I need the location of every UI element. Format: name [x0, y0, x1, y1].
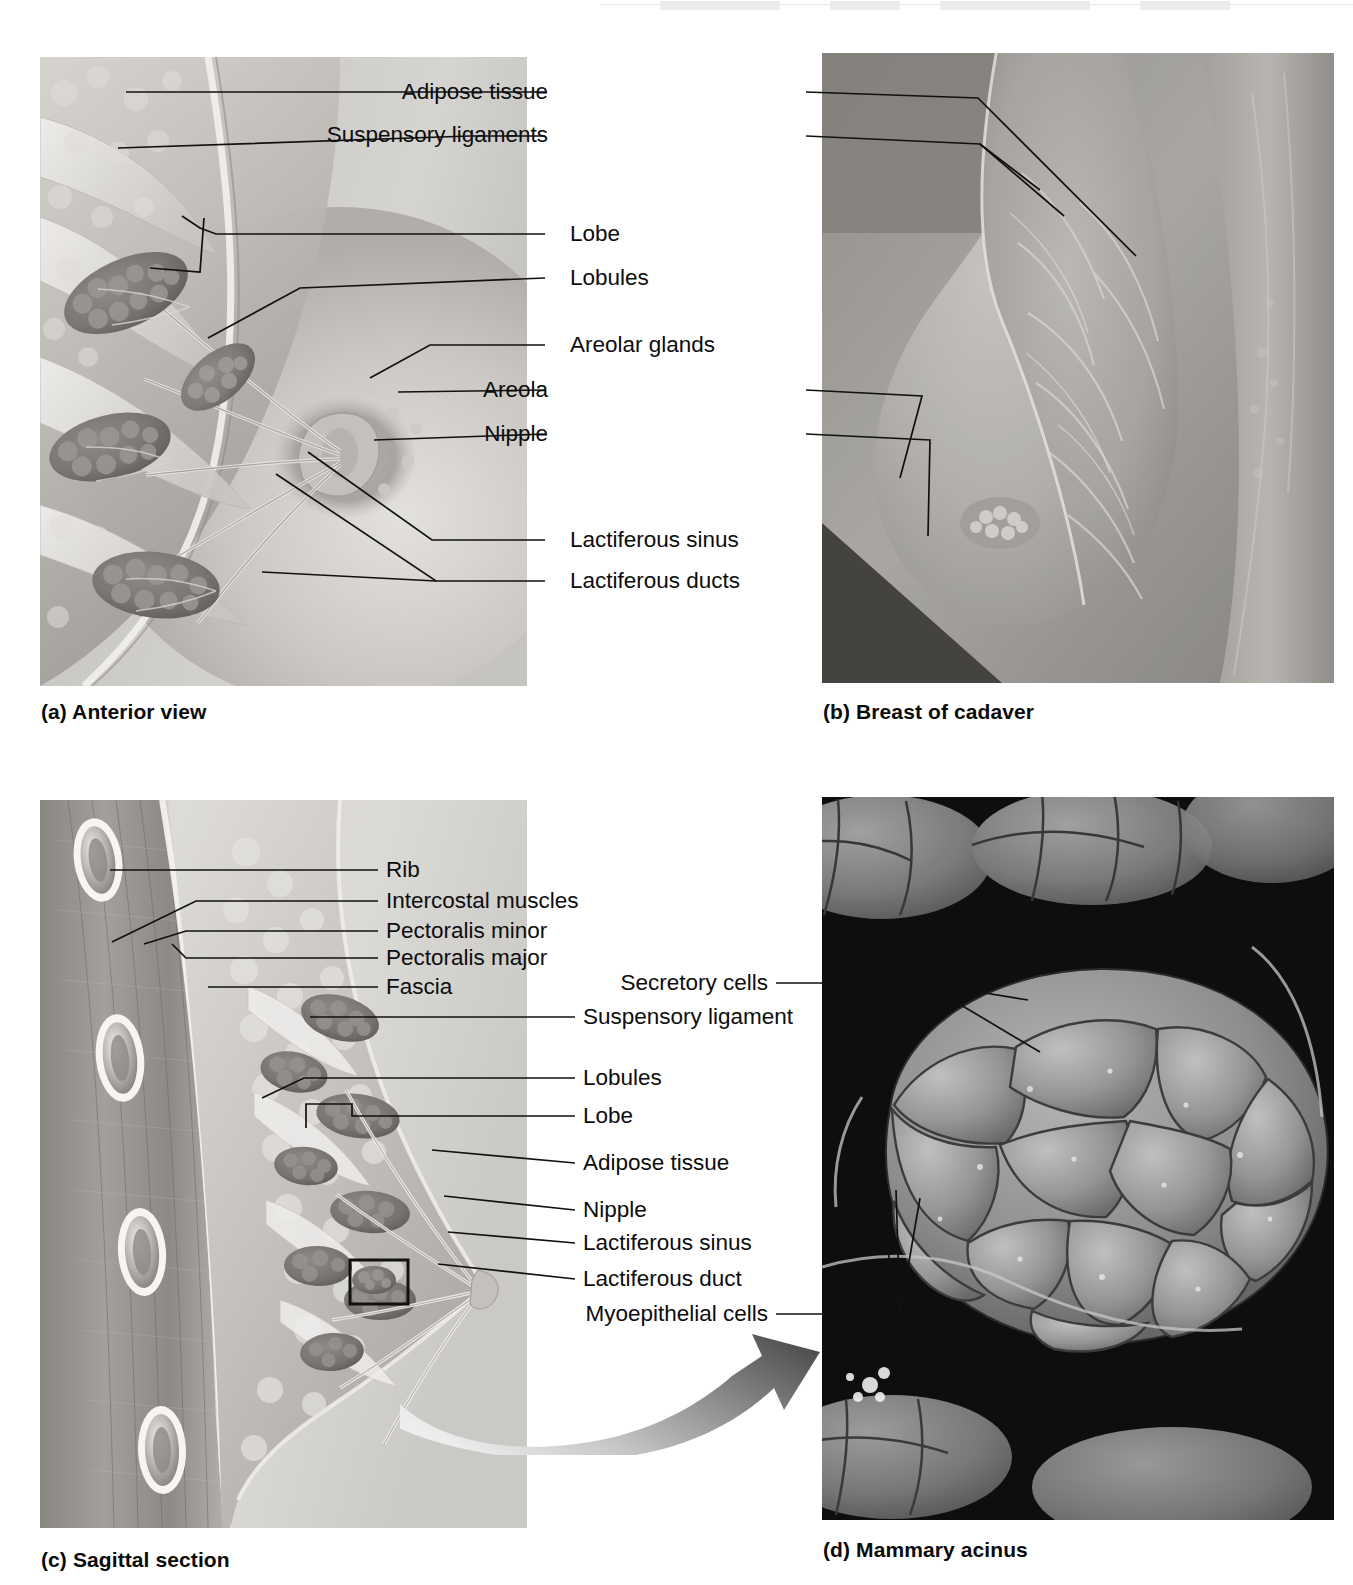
- cadaver-breast-photograph: [822, 53, 1334, 683]
- label-nipple-a: Nipple: [300, 423, 548, 446]
- panel-a-anterior-view: [40, 57, 527, 686]
- anterior-view-illustration: [40, 57, 527, 686]
- label-suspensory-ligaments-a: Suspensory ligaments: [300, 124, 548, 147]
- caption-panel-c: (c) Sagittal section: [41, 1548, 230, 1572]
- label-adipose-tissue-a: Adipose tissue: [300, 81, 548, 104]
- label-suspensory-ligament-c: Suspensory ligament: [583, 1006, 793, 1029]
- running-head-strip: [600, 0, 1353, 16]
- panel-d-mammary-acinus-micrograph: [822, 797, 1334, 1520]
- label-fascia: Fascia: [386, 976, 452, 999]
- label-rib: Rib: [386, 859, 420, 882]
- label-areola-a: Areola: [300, 379, 548, 402]
- label-pectoralis-major: Pectoralis major: [386, 947, 547, 970]
- label-areolar-glands-a: Areolar glands: [570, 334, 715, 357]
- label-lactiferous-sinus-a: Lactiferous sinus: [570, 529, 739, 552]
- caption-panel-d: (d) Mammary acinus: [823, 1538, 1028, 1562]
- label-nipple-c: Nipple: [583, 1199, 647, 1222]
- label-lactiferous-duct-c: Lactiferous duct: [583, 1268, 742, 1291]
- label-lobe-c: Lobe: [583, 1105, 633, 1128]
- label-adipose-tissue-c: Adipose tissue: [583, 1152, 729, 1175]
- panel-b-cadaver-photo: [822, 53, 1334, 683]
- label-lactiferous-ducts-a: Lactiferous ducts: [570, 570, 740, 593]
- mammary-acinus-sem: [822, 797, 1334, 1520]
- label-lobe-a: Lobe: [570, 223, 620, 246]
- label-lobules-c: Lobules: [583, 1067, 662, 1090]
- label-myoepithelial-cells: Myoepithelial cells: [470, 1303, 768, 1326]
- label-lactiferous-sinus-c: Lactiferous sinus: [583, 1232, 752, 1255]
- caption-panel-a: (a) Anterior view: [41, 700, 206, 724]
- label-lobules-a: Lobules: [570, 267, 649, 290]
- label-secretory-cells: Secretory cells: [470, 972, 768, 995]
- caption-panel-b: (b) Breast of cadaver: [823, 700, 1034, 724]
- label-pectoralis-minor: Pectoralis minor: [386, 920, 547, 943]
- label-intercostal-muscles: Intercostal muscles: [386, 890, 579, 913]
- figure-root: Adipose tissue Suspensory ligaments Lobe…: [0, 0, 1353, 1585]
